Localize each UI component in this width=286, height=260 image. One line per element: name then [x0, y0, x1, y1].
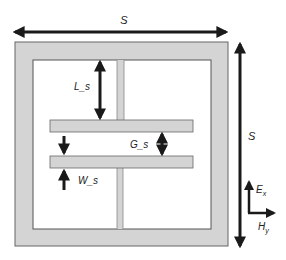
upper-bar — [50, 120, 193, 132]
right-s-label: S — [248, 130, 256, 142]
field-axes: Ex Hy — [248, 182, 274, 235]
ls-label: L_s — [74, 81, 90, 92]
right-s-dimension: S — [240, 44, 256, 246]
ls-dimension: L_s — [74, 62, 100, 118]
top-s-label: S — [120, 14, 128, 26]
lower-bar — [50, 156, 193, 168]
h-field-label: Hy — [258, 221, 269, 235]
center-stems — [117, 60, 124, 229]
gs-dimension: G_s — [130, 134, 162, 154]
ws-label: W_s — [78, 175, 98, 186]
e-field-label: Ex — [256, 184, 267, 197]
gs-label: G_s — [130, 139, 148, 150]
top-s-dimension: S — [15, 14, 226, 32]
unit-cell-diagram: S S L_s G_s W_s Ex Hy — [0, 0, 286, 260]
